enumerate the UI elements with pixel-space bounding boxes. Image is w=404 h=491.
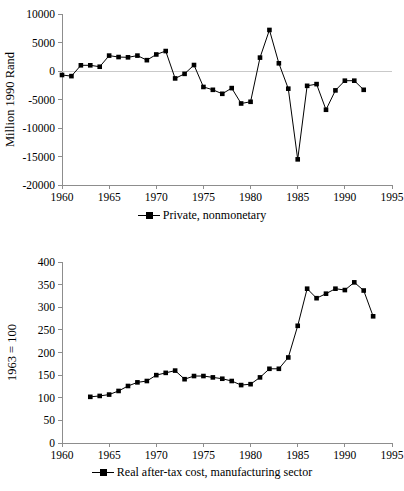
y-tick-label: 0 xyxy=(49,437,55,449)
x-tick-label: 1960 xyxy=(51,191,74,203)
y-axis-title: 1963 = 100 xyxy=(5,324,19,381)
data-point-marker xyxy=(88,395,93,400)
data-point-marker xyxy=(192,63,197,68)
data-point-marker xyxy=(201,85,206,90)
data-point-marker xyxy=(163,371,168,376)
data-point-marker xyxy=(182,72,187,77)
data-point-marker xyxy=(79,63,84,68)
data-point-marker xyxy=(145,379,150,384)
x-tick-label: 1970 xyxy=(145,449,168,461)
data-point-marker xyxy=(305,84,310,89)
data-point-marker xyxy=(154,52,159,57)
data-point-marker xyxy=(286,86,291,91)
data-point-marker xyxy=(126,55,131,60)
data-point-marker xyxy=(116,55,121,60)
y-tick-label: 200 xyxy=(38,347,56,359)
data-point-marker xyxy=(286,355,291,360)
data-point-marker xyxy=(229,86,234,91)
x-tick-label: 1985 xyxy=(286,191,309,203)
x-tick-label: 1960 xyxy=(51,449,74,461)
y-tick-label: 5000 xyxy=(32,37,55,49)
y-tick-label: 100 xyxy=(38,392,56,404)
data-point-marker xyxy=(173,76,178,81)
data-point-marker xyxy=(371,314,376,319)
data-point-marker xyxy=(116,389,121,394)
y-tick-label: -20000 xyxy=(22,179,55,191)
y-tick-label: 150 xyxy=(38,369,56,381)
data-point-marker xyxy=(361,288,366,293)
data-point-marker xyxy=(277,366,282,371)
data-point-marker xyxy=(107,392,112,397)
y-tick-label: 0 xyxy=(49,65,55,77)
data-point-marker xyxy=(182,377,187,382)
data-point-marker xyxy=(107,53,112,58)
data-point-marker xyxy=(248,382,253,387)
data-point-marker xyxy=(333,88,338,93)
legend-label-top: Private, nonmonetary xyxy=(163,208,266,223)
chart-page: 1000050000-5000-10000-15000-200001960196… xyxy=(0,0,404,491)
legend-marker-icon xyxy=(92,468,114,478)
data-point-marker xyxy=(314,296,319,301)
data-point-marker xyxy=(258,55,263,60)
legend-bottom: Real after-tax cost, manufacturing secto… xyxy=(0,464,404,480)
data-point-marker xyxy=(305,286,310,291)
x-tick-label: 1990 xyxy=(333,191,356,203)
y-tick-label: 300 xyxy=(38,301,56,313)
y-tick-label: -15000 xyxy=(22,151,55,163)
x-tick-label: 1990 xyxy=(333,449,356,461)
data-point-marker xyxy=(295,324,300,329)
x-tick-label: 1970 xyxy=(145,191,168,203)
data-point-marker xyxy=(88,63,93,68)
y-tick-label: -10000 xyxy=(22,122,55,134)
data-point-marker xyxy=(239,101,244,106)
x-tick-label: 1980 xyxy=(239,449,262,461)
data-point-marker xyxy=(135,380,140,385)
data-point-marker xyxy=(173,368,178,373)
data-point-marker xyxy=(324,107,329,112)
data-point-marker xyxy=(201,374,206,379)
data-point-marker xyxy=(333,286,338,291)
data-point-marker xyxy=(220,92,225,97)
data-point-marker xyxy=(154,373,159,378)
data-point-marker xyxy=(60,73,65,78)
data-point-marker xyxy=(267,366,272,371)
data-point-marker xyxy=(135,53,140,58)
data-point-marker xyxy=(361,88,366,93)
legend-marker-icon xyxy=(138,211,160,221)
data-point-marker xyxy=(295,157,300,162)
data-point-marker xyxy=(352,78,357,83)
data-point-marker xyxy=(126,384,131,389)
data-point-marker xyxy=(258,375,263,380)
data-point-marker xyxy=(352,280,357,285)
data-point-marker xyxy=(145,58,150,63)
x-tick-label: 1965 xyxy=(98,191,121,203)
data-point-marker xyxy=(69,74,74,79)
x-tick-label: 1975 xyxy=(192,191,215,203)
y-tick-label: 400 xyxy=(38,256,56,268)
data-point-marker xyxy=(267,28,272,33)
legend-top: Private, nonmonetary xyxy=(0,207,404,223)
data-point-marker xyxy=(220,376,225,381)
data-point-marker xyxy=(229,379,234,384)
data-point-marker xyxy=(163,49,168,54)
x-tick-label: 1965 xyxy=(98,449,121,461)
y-tick-label: -5000 xyxy=(28,94,55,106)
series-line xyxy=(62,30,364,159)
data-point-marker xyxy=(277,61,282,66)
data-point-marker xyxy=(248,99,253,104)
data-point-marker xyxy=(343,288,348,293)
legend-label-bottom: Real after-tax cost, manufacturing secto… xyxy=(117,465,312,480)
data-point-marker xyxy=(211,88,216,93)
x-tick-label: 1980 xyxy=(239,191,262,203)
data-point-marker xyxy=(324,291,329,296)
y-axis-title: Million 1990 Rand xyxy=(3,51,17,147)
figure-real-after-tax-cost: 4003503002502001501005001960196519701975… xyxy=(0,245,404,491)
x-tick-label: 1975 xyxy=(192,449,215,461)
y-tick-label: 250 xyxy=(38,324,56,336)
data-point-marker xyxy=(343,78,348,83)
y-tick-label: 350 xyxy=(38,279,56,291)
x-tick-label: 1995 xyxy=(381,449,404,461)
x-tick-label: 1995 xyxy=(381,191,404,203)
data-point-marker xyxy=(314,82,319,87)
y-tick-label: 50 xyxy=(44,414,56,426)
